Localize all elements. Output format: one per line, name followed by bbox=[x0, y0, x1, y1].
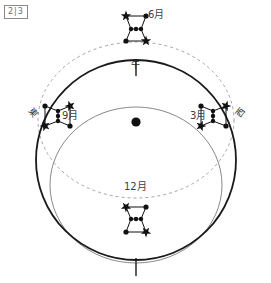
star-dot bbox=[123, 229, 128, 234]
direction-label-south: 午 bbox=[131, 60, 140, 70]
belt-star-dot bbox=[134, 27, 138, 31]
star-glyph bbox=[141, 228, 151, 238]
belt-star-dot bbox=[139, 217, 143, 221]
star-glyph bbox=[121, 203, 131, 213]
star-glyph bbox=[121, 11, 131, 21]
belt-star-dot bbox=[56, 114, 60, 118]
star-dot bbox=[42, 103, 47, 108]
constellation-orion-dec bbox=[121, 203, 151, 238]
star-dot bbox=[198, 103, 203, 108]
star-dot bbox=[143, 204, 148, 209]
month-label-dec: 12月 bbox=[124, 181, 147, 192]
star-glyph bbox=[141, 36, 151, 46]
celestial-sphere-diagram: 2|3 午 東 西 6月 9月 3月 12月 bbox=[0, 0, 271, 283]
observer-center-dot bbox=[131, 117, 140, 126]
star-dot bbox=[123, 38, 128, 43]
diagram-canvas bbox=[0, 0, 271, 283]
belt-star-dot bbox=[134, 217, 138, 221]
belt-star-dot bbox=[211, 114, 215, 118]
belt-star-dot bbox=[139, 27, 143, 31]
month-label-mar: 3月 bbox=[190, 110, 206, 121]
star-dot bbox=[67, 123, 72, 128]
figure-tag: 2|3 bbox=[4, 5, 28, 19]
belt-star-dot bbox=[211, 109, 215, 113]
belt-star-dot bbox=[129, 217, 133, 221]
constellation-orion-jun bbox=[121, 11, 151, 46]
month-label-sep: 9月 bbox=[62, 110, 78, 121]
belt-star-dot bbox=[56, 119, 60, 123]
month-label-jun: 6月 bbox=[148, 9, 164, 20]
belt-star-dot bbox=[211, 119, 215, 123]
belt-star-dot bbox=[129, 27, 133, 31]
star-dot bbox=[223, 123, 228, 128]
belt-star-dot bbox=[56, 109, 60, 113]
star-glyph bbox=[197, 121, 207, 131]
